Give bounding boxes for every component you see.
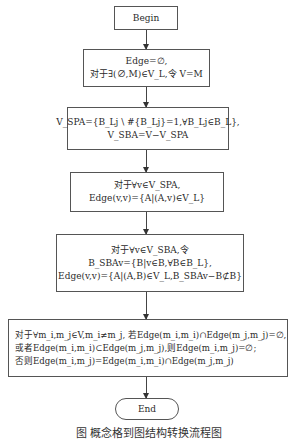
node-edge-pairs-line-2: 或者Edge(m_i,m_i)⊂Edge(m_j,m_j),则Edge(m_i,… bbox=[15, 342, 256, 355]
node-init-line-1: Edge=∅, bbox=[126, 55, 168, 68]
arrow-spa-edgespa bbox=[146, 150, 147, 172]
node-edge-sba: 对于∀v∈V_SBA,令 B_SBAv={B|v∈B,∀B∈B_L}, Edge… bbox=[56, 234, 244, 292]
node-edge-pairs-line-1: 对于∀m_i,m_j∈V,m_i≠m_j, 若Edge(m_i,m_i)∩Edg… bbox=[15, 329, 286, 342]
node-edge-spa-line-2: Edge(v,v)={A|(A,v)∈V_L} bbox=[89, 192, 205, 205]
node-begin-label: Begin bbox=[133, 12, 159, 25]
figure-caption: 图 概念格到图结构转换流程图 bbox=[0, 424, 298, 440]
node-spa-sba-line-2: V_SBA=V−V_SPA bbox=[108, 129, 189, 142]
node-edge-spa-line-1: 对于∀v∈V_SPA, bbox=[114, 179, 181, 192]
arrow-pairs-end bbox=[146, 377, 147, 398]
arrow-edgesba-pairs bbox=[146, 292, 147, 319]
arrow-init-spa bbox=[146, 87, 147, 107]
node-end: End bbox=[115, 398, 179, 420]
node-edge-pairs: 对于∀m_i,m_j∈V,m_i≠m_j, 若Edge(m_i,m_i)∩Edg… bbox=[8, 319, 288, 377]
node-spa-sba: V_SPA={B_Lj \ #{B_Lj}=1,∀B_Lj∈B_L}, V_SB… bbox=[67, 107, 229, 150]
arrow-begin-init bbox=[146, 30, 147, 49]
node-edge-sba-line-3: Edge(v,v)={A|(A,B)∈V_L,B_SBAv−B⊄B} bbox=[58, 270, 242, 283]
node-begin: Begin bbox=[114, 6, 178, 30]
node-edge-sba-line-2: B_SBAv={B|v∈B,∀B∈B_L}, bbox=[88, 257, 212, 270]
node-spa-sba-line-1: V_SPA={B_Lj \ #{B_Lj}=1,∀B_Lj∈B_L}, bbox=[56, 116, 239, 129]
node-init: Edge=∅, 对于∃(∅,M)∈V_L,令 V=M bbox=[83, 49, 210, 87]
node-init-line-2: 对于∃(∅,M)∈V_L,令 V=M bbox=[90, 68, 203, 81]
node-edge-sba-line-1: 对于∀v∈V_SBA,令 bbox=[111, 244, 188, 257]
node-end-label: End bbox=[138, 403, 156, 416]
node-edge-pairs-line-3: 否则Edge(m_i,m_j)=Edge(m_i,m_i)∩Edge(m_j,m… bbox=[15, 355, 234, 368]
arrow-edgespa-edgesba bbox=[146, 212, 147, 234]
node-edge-spa: 对于∀v∈V_SPA, Edge(v,v)={A|(A,v)∈V_L} bbox=[70, 172, 224, 212]
